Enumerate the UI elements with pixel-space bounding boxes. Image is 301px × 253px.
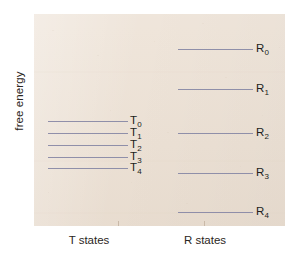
group-tick-r-states <box>204 221 205 226</box>
level-label-t4-base: T <box>130 161 137 173</box>
plot-panel <box>34 14 285 226</box>
level-label-r2-base: R <box>256 126 264 138</box>
level-label-r0: R0 <box>256 43 269 55</box>
level-line-r3 <box>178 173 253 174</box>
level-line-r0 <box>178 49 253 50</box>
group-tick-t-states <box>118 221 119 226</box>
level-label-r2: R2 <box>256 127 269 139</box>
panel-texture <box>34 14 285 226</box>
level-label-r0-base: R <box>256 42 264 54</box>
level-line-r1 <box>178 89 253 90</box>
level-label-t2-base: T <box>130 138 137 150</box>
group-caption-t-states: T states <box>58 234 120 246</box>
level-label-r0-sub: 0 <box>265 48 269 57</box>
level-label-r3-sub: 3 <box>265 172 269 181</box>
level-line-r4 <box>178 212 253 213</box>
level-line-t0 <box>48 121 128 122</box>
level-label-r1-sub: 1 <box>265 88 269 97</box>
level-label-t1: T1 <box>130 127 141 139</box>
group-caption-r-states: R states <box>174 234 236 246</box>
level-label-r3-base: R <box>256 166 264 178</box>
y-axis-label: free energy <box>13 46 25 156</box>
level-line-t4 <box>48 168 128 169</box>
level-label-r4-base: R <box>256 205 264 217</box>
level-line-t3 <box>48 157 128 158</box>
level-label-r1: R1 <box>256 83 269 95</box>
level-label-t1-base: T <box>130 126 137 138</box>
level-label-r4: R4 <box>256 206 269 218</box>
free-energy-diagram: free energy T0 T1 T2 T3 T4 R0 R1 R2 R3 R… <box>0 0 301 253</box>
level-line-t1 <box>48 133 128 134</box>
level-label-t0: T0 <box>130 115 141 127</box>
level-label-r2-sub: 2 <box>265 132 269 141</box>
level-label-t4: T4 <box>130 162 141 174</box>
level-label-t4-sub: 4 <box>137 167 141 176</box>
level-label-r3: R3 <box>256 167 269 179</box>
level-label-t2: T2 <box>130 139 141 151</box>
level-label-t0-base: T <box>130 114 137 126</box>
level-label-r4-sub: 4 <box>265 211 269 220</box>
level-line-r2 <box>178 133 253 134</box>
level-line-t2 <box>48 145 128 146</box>
level-label-r1-base: R <box>256 82 264 94</box>
